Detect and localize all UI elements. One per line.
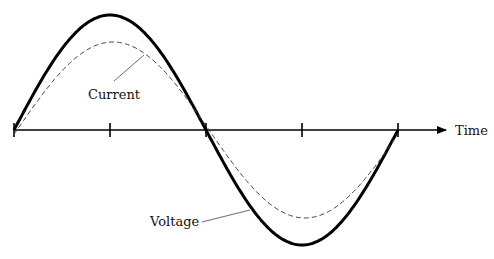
time-axis-label: Time [455,123,488,138]
voltage-current-diagram: Current Voltage Time [0,0,494,259]
current-leader-line [114,55,144,81]
current-label: Current [88,87,141,102]
voltage-leader-line [202,210,250,222]
voltage-label: Voltage [149,214,199,229]
